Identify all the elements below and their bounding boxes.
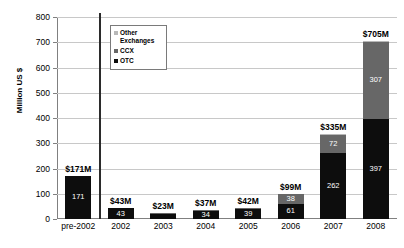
gridline <box>57 42 397 43</box>
bar-total-label: $37M <box>195 198 216 208</box>
bar-stack[interactable]: 397307$705M <box>363 41 389 219</box>
bar-stack[interactable]: 39$42M <box>235 208 261 219</box>
legend-swatch-icon <box>114 31 118 35</box>
bar-stack[interactable]: 43$43M <box>108 208 134 219</box>
y-tick-label: 700 <box>36 37 50 47</box>
category-divider-line <box>99 13 101 219</box>
y-tick-label: 400 <box>36 113 50 123</box>
bar-total-label: $42M <box>238 196 259 206</box>
y-tick-label: 500 <box>36 88 50 98</box>
y-tick-label: 0 <box>45 214 50 224</box>
x-tick-label: 2008 <box>366 221 385 231</box>
y-tick-label: 200 <box>36 164 50 174</box>
bar-total-label: $23M <box>153 201 174 211</box>
y-axis-title: Million US $ <box>15 46 24 136</box>
bar-stack[interactable]: 26272$335M <box>320 134 346 219</box>
y-tick-mark <box>53 219 57 220</box>
legend-swatch-icon <box>114 59 118 63</box>
bar-segment-ccx[interactable] <box>193 210 219 211</box>
bar-segment-ccx[interactable]: 72 <box>320 135 346 153</box>
x-tick-label: 2005 <box>239 221 258 231</box>
bar-segment-otc[interactable]: 61 <box>278 204 304 219</box>
y-tick-mark <box>53 68 57 69</box>
gridline <box>57 68 397 69</box>
legend-label: CCX <box>120 47 134 55</box>
y-tick-mark <box>53 169 57 170</box>
stacked-bar-chart: Million US $ 0100200300400500600700800 1… <box>0 0 404 248</box>
bar-stack[interactable]: $23M <box>150 213 176 219</box>
bar-segment-otc[interactable]: 34 <box>193 210 219 219</box>
bar-segment-value: 34 <box>193 211 219 219</box>
bar-segment-otc[interactable]: 171 <box>65 176 91 219</box>
bar-segment-value: 43 <box>108 210 134 218</box>
bar-total-label: $705M <box>363 29 389 39</box>
bar-segment-value: 171 <box>65 194 91 202</box>
y-tick-label: 300 <box>36 138 50 148</box>
legend-swatch-icon <box>114 49 118 53</box>
chart-legend: Other ExchangesCCXOTC <box>110 25 167 70</box>
y-tick-label: 100 <box>36 189 50 199</box>
x-tick-label: 2006 <box>281 221 300 231</box>
bar-total-label: $99M <box>280 182 301 192</box>
legend-label: OTC <box>120 57 134 65</box>
x-tick-label: 2007 <box>324 221 343 231</box>
bar-segment-otc[interactable] <box>150 213 176 219</box>
bar-segment-value: 61 <box>278 208 304 216</box>
bar-segment-otc[interactable]: 43 <box>108 208 134 219</box>
bar-segment-ccx[interactable] <box>235 208 261 209</box>
bar-stack[interactable]: 6138$99M <box>278 194 304 219</box>
bar-segment-value: 307 <box>363 76 389 84</box>
bar-segment-otc[interactable]: 39 <box>235 209 261 219</box>
x-tick-label: 2003 <box>154 221 173 231</box>
bar-segment-ccx[interactable]: 38 <box>278 194 304 204</box>
gridline <box>57 93 397 94</box>
gridline <box>57 17 397 18</box>
bar-stack[interactable]: 171$171M <box>65 176 91 219</box>
bar-stack[interactable]: 34$37M <box>193 210 219 219</box>
y-tick-mark <box>53 143 57 144</box>
bar-segment-value: 39 <box>235 210 261 218</box>
plot-area: 0100200300400500600700800 171$171M43$43M… <box>57 17 397 219</box>
y-tick-mark <box>53 17 57 18</box>
bar-segment-otc[interactable]: 397 <box>363 119 389 219</box>
legend-item[interactable]: Other Exchanges <box>114 29 163 45</box>
legend-label: Other Exchanges <box>120 29 163 45</box>
legend-item[interactable]: CCX <box>114 47 163 55</box>
y-tick-mark <box>53 118 57 119</box>
legend-item[interactable]: OTC <box>114 57 163 65</box>
bar-total-label: $171M <box>65 164 91 174</box>
y-tick-mark <box>53 194 57 195</box>
y-tick-label: 600 <box>36 63 50 73</box>
x-tick-label: pre-2002 <box>61 221 95 231</box>
bar-segment-value: 72 <box>320 140 346 148</box>
bar-segment-value: 38 <box>278 195 304 203</box>
bar-segment-value: 262 <box>320 182 346 190</box>
y-tick-mark <box>53 42 57 43</box>
bar-segment-value: 397 <box>363 165 389 173</box>
gridline <box>57 118 397 119</box>
x-tick-label: 2004 <box>196 221 215 231</box>
bar-segment-otc[interactable]: 262 <box>320 153 346 219</box>
x-tick-label: 2002 <box>111 221 130 231</box>
y-tick-label: 800 <box>36 12 50 22</box>
bar-total-label: $335M <box>320 122 346 132</box>
y-tick-mark <box>53 93 57 94</box>
bar-segment-ccx[interactable]: 307 <box>363 41 389 119</box>
bar-total-label: $43M <box>110 196 131 206</box>
